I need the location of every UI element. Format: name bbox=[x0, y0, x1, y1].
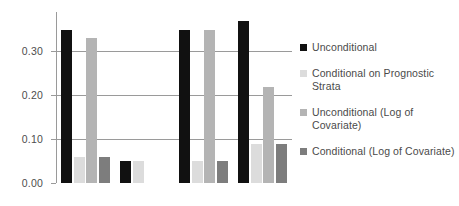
bar-chart-figure: 0.000.100.200.30 UnconditionalConditiona… bbox=[0, 0, 459, 206]
bar bbox=[86, 38, 97, 183]
plot-area bbox=[56, 12, 292, 183]
legend-swatch-icon bbox=[300, 44, 307, 51]
legend-item-label: Unconditional bbox=[312, 41, 377, 54]
bar bbox=[74, 157, 85, 183]
y-axis-tick bbox=[51, 183, 56, 184]
bar bbox=[204, 30, 215, 183]
legend-item-label: Conditional (Log of Covariate) bbox=[312, 145, 455, 158]
y-axis-tick-label: 0.20 bbox=[22, 90, 43, 101]
bar bbox=[99, 157, 110, 183]
bar bbox=[61, 30, 72, 183]
legend-swatch-icon bbox=[300, 70, 307, 77]
y-axis-tick-label: 0.10 bbox=[22, 134, 43, 145]
legend-swatch-icon bbox=[300, 109, 307, 116]
bar bbox=[276, 144, 287, 183]
chart-legend: UnconditionalConditional on Prognostic S… bbox=[300, 41, 455, 171]
bar bbox=[238, 21, 249, 183]
legend-item[interactable]: Unconditional (Log of Covariate) bbox=[300, 106, 455, 132]
bar bbox=[251, 144, 262, 183]
y-axis-tick-label: 0.00 bbox=[22, 178, 43, 189]
bar bbox=[179, 30, 190, 183]
legend-item[interactable]: Unconditional bbox=[300, 41, 455, 54]
legend-item[interactable]: Conditional (Log of Covariate) bbox=[300, 145, 455, 158]
legend-item[interactable]: Conditional on Prognostic Strata bbox=[300, 67, 455, 93]
bar bbox=[217, 161, 228, 183]
bar bbox=[192, 161, 203, 183]
bar bbox=[133, 161, 144, 183]
legend-swatch-icon bbox=[300, 148, 307, 155]
bar bbox=[120, 161, 131, 183]
legend-item-label: Conditional on Prognostic Strata bbox=[312, 67, 455, 93]
y-axis-tick-label: 0.30 bbox=[22, 46, 43, 57]
bar bbox=[263, 87, 274, 183]
legend-item-label: Unconditional (Log of Covariate) bbox=[312, 106, 455, 132]
bars-layer bbox=[56, 12, 292, 183]
y-axis-labels: 0.000.100.200.30 bbox=[0, 0, 52, 206]
